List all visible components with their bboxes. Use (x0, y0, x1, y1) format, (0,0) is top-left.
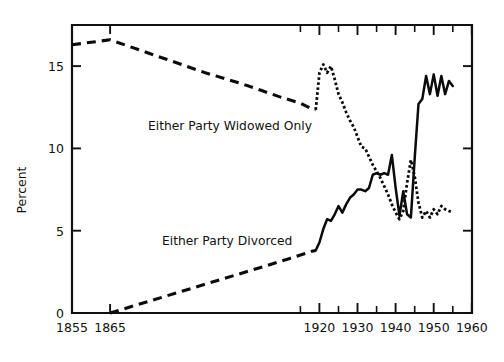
x-tick-label-1920: 1920 (303, 320, 335, 335)
x-tick-label-1940: 1940 (380, 320, 412, 335)
series-label-widowed: Either Party Widowed Only (148, 119, 312, 133)
x-axis-ticks (72, 303, 472, 313)
y-tick-label-10: 10 (48, 141, 64, 156)
series-1-segment-0 (110, 250, 316, 313)
x-tick-label-1960: 1960 (456, 320, 488, 335)
chart-figure: 0 5 10 15 Percent (0, 0, 504, 362)
y-tick-label-0: 0 (56, 306, 64, 321)
series-1-segment-1 (316, 74, 453, 250)
y-axis-title: Percent (14, 166, 29, 213)
y-tick-label-5: 5 (56, 224, 64, 239)
y-tick-label-15: 15 (48, 59, 64, 74)
line-chart-svg: 0 5 10 15 Percent (0, 0, 504, 362)
x-tick-label-1930: 1930 (342, 320, 374, 335)
x-axis-ticks-top (72, 25, 472, 35)
x-tick-label-1950: 1950 (418, 320, 450, 335)
series-0-segment-0 (72, 40, 316, 110)
x-tick-label-1855: 1855 (56, 320, 88, 335)
series-layer (72, 40, 453, 313)
x-tick-label-1865: 1865 (94, 320, 126, 335)
series-label-divorced: Either Party Divorced (162, 234, 292, 248)
